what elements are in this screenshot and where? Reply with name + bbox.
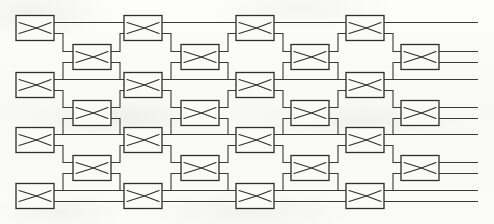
feed-in-i1c1-upper [54, 34, 73, 52]
feed-in-i3c1-upper [54, 146, 73, 163]
feed-out-i2c2-lower [219, 119, 236, 135]
feed-in-i2c3-upper [274, 91, 291, 108]
feed-out-i2c2-upper [219, 91, 236, 108]
feed-in-i2c4-lower [384, 119, 401, 135]
feed-in-i2c2-lower [162, 119, 181, 135]
feed-in-i3c2-lower [162, 174, 181, 191]
switch-r2c1[interactable] [16, 73, 54, 98]
switch-i1c4[interactable] [401, 45, 439, 70]
feed-in-i2c1-lower [54, 119, 73, 135]
switching-network-diagram [0, 0, 494, 224]
feed-in-i1c2-upper [162, 34, 181, 52]
feed-out-i2c3-upper [329, 91, 346, 108]
feed-in-i2c3-lower [274, 119, 291, 135]
feed-out-i2c1-lower [111, 119, 124, 135]
feed-in-i3c3-lower [274, 174, 291, 191]
switch-r4c4[interactable] [346, 184, 384, 209]
feed-out-i1c3-lower [329, 63, 346, 80]
feed-in-i3c1-lower [54, 174, 73, 191]
feed-in-i2c4-upper [384, 91, 401, 108]
switch-r3c4[interactable] [346, 128, 384, 153]
feed-out-i2c1-upper [111, 91, 124, 108]
switch-r1c1[interactable] [16, 16, 54, 41]
feed-in-i3c4-upper [384, 146, 401, 163]
switch-r2c2[interactable] [124, 73, 162, 98]
feed-out-i1c1-lower [111, 63, 124, 80]
switch-i1c1[interactable] [73, 45, 111, 70]
switch-i3c4[interactable] [401, 156, 439, 181]
feed-out-i3c3-lower [329, 174, 346, 191]
switch-r4c1[interactable] [16, 184, 54, 209]
feed-in-i1c3-lower [274, 63, 291, 80]
feed-in-i3c2-upper [162, 146, 181, 163]
feed-in-i1c4-upper [384, 34, 401, 52]
switch-r4c2[interactable] [124, 184, 162, 209]
switch-r3c3[interactable] [236, 128, 274, 153]
feed-in-i3c3-upper [274, 146, 291, 163]
switch-r2c4[interactable] [346, 73, 384, 98]
switch-r3c2[interactable] [124, 128, 162, 153]
feed-out-i3c2-upper [219, 146, 236, 163]
switch-i2c1[interactable] [73, 101, 111, 126]
feed-out-i1c2-upper [219, 34, 236, 52]
feed-out-i3c3-upper [329, 146, 346, 163]
feed-out-i3c2-lower [219, 174, 236, 191]
switch-i2c4[interactable] [401, 101, 439, 126]
switch-i1c3[interactable] [291, 45, 329, 70]
feed-out-i1c3-upper [329, 34, 346, 52]
feed-in-i1c3-upper [274, 34, 291, 52]
switch-r1c4[interactable] [346, 16, 384, 41]
switch-r2c3[interactable] [236, 73, 274, 98]
feed-out-i3c1-upper [111, 146, 124, 163]
switch-i2c3[interactable] [291, 101, 329, 126]
switch-i3c3[interactable] [291, 156, 329, 181]
feed-in-i2c2-upper [162, 91, 181, 108]
feed-in-i1c4-lower [384, 63, 401, 80]
feed-in-i3c4-lower [384, 174, 401, 191]
feed-in-i1c2-lower [162, 63, 181, 80]
switch-r4c3[interactable] [236, 184, 274, 209]
feed-in-i2c1-upper [54, 91, 73, 108]
switch-r1c2[interactable] [124, 16, 162, 41]
switch-i1c2[interactable] [181, 45, 219, 70]
feed-out-i3c1-lower [111, 174, 124, 191]
switch-r3c1[interactable] [16, 128, 54, 153]
feed-out-i1c2-lower [219, 63, 236, 80]
benes-network-figure [0, 0, 494, 224]
feed-out-i2c3-lower [329, 119, 346, 135]
switch-i2c2[interactable] [181, 101, 219, 126]
feed-in-i1c1-lower [54, 63, 73, 80]
feed-out-i1c1-upper [111, 34, 124, 52]
switch-i3c1[interactable] [73, 156, 111, 181]
switch-i3c2[interactable] [181, 156, 219, 181]
switch-r1c3[interactable] [236, 16, 274, 41]
